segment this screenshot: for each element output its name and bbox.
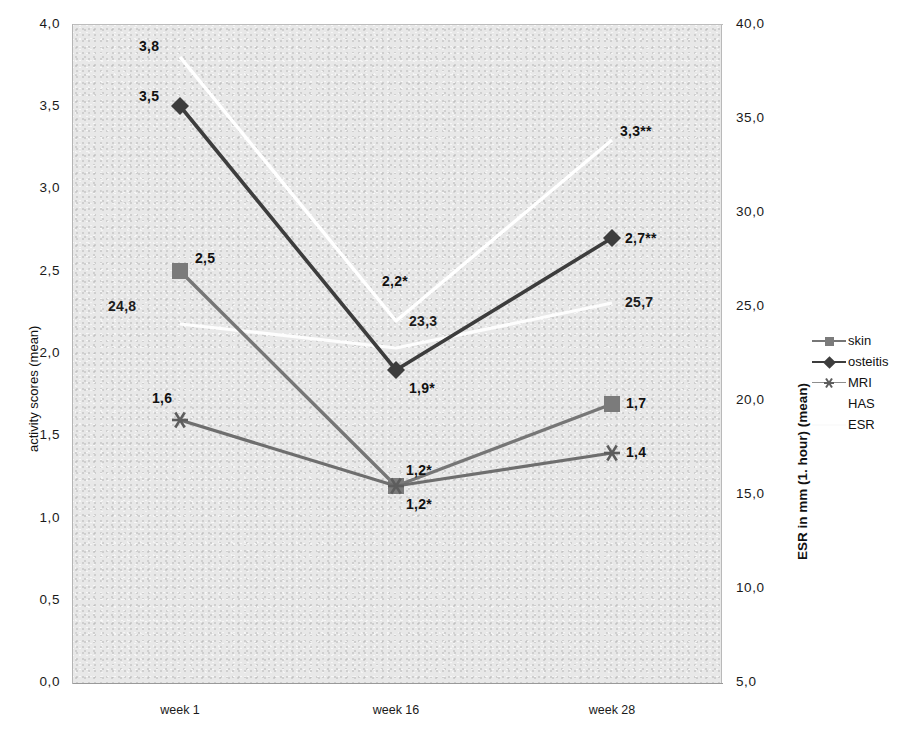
legend-label-esr: ESR: [848, 417, 875, 432]
x-axis-line: [72, 683, 723, 684]
legend-label-osteitis: osteitis: [848, 354, 888, 369]
legend-item-has[interactable]: HAS: [812, 393, 900, 414]
y-right-tick-20-0: 20,0: [736, 392, 765, 407]
y-right-tick-5-0: 5,0: [736, 674, 757, 689]
chart-canvas: 4,0 3,5 3,0 2,5 2,0 1,5 1,0 0,5 0,0 40,0…: [0, 0, 903, 732]
data-label-week28-mri: 1,4: [626, 444, 646, 460]
y-left-tick-0-0: 0,0: [14, 674, 60, 689]
legend-label-mri: MRI: [848, 375, 872, 390]
y-axis-line: [72, 24, 73, 684]
data-label-week16-has: 2,2*: [382, 273, 408, 289]
data-label-week28-has: 3,3**: [620, 123, 652, 139]
y-right-tick-30-0: 30,0: [736, 204, 765, 219]
y-right-tick-15-0: 15,0: [736, 486, 765, 501]
y-right-tick-10-0: 10,0: [736, 580, 765, 595]
data-label-week28-osteitis: 2,7**: [625, 230, 657, 246]
data-label-week16-skin: 1,2*: [406, 462, 432, 478]
data-label-week16-esr: 23,3: [409, 313, 437, 329]
data-label-week1-skin: 2,5: [195, 250, 215, 266]
data-label-week28-esr: 25,7: [625, 294, 653, 310]
x-tick-week-28: week 28: [589, 703, 636, 717]
y-left-tick-3-0: 3,0: [14, 180, 60, 195]
y-left-tick-4-0: 4,0: [14, 16, 60, 31]
data-label-week1-esr: 24,8: [108, 298, 136, 314]
data-label-week1-has: 3,8: [139, 38, 159, 54]
data-label-week28-skin: 1,7: [626, 395, 646, 411]
y-right-tick-40-0: 40,0: [736, 16, 765, 31]
y-right-tick-25-0: 25,0: [736, 298, 765, 313]
legend-label-skin: skin: [848, 333, 871, 348]
legend-item-mri[interactable]: MRI: [812, 372, 900, 393]
line-marker-icon: [812, 418, 846, 432]
chart-legend: skin osteitis MRI: [812, 330, 900, 435]
y-left-tick-1-0: 1,0: [14, 510, 60, 525]
data-label-week1-osteitis: 3,5: [139, 88, 159, 104]
y-axis-left-title: activity scores (mean): [26, 326, 41, 452]
legend-item-esr[interactable]: ESR: [812, 414, 900, 435]
plot-top-border: [72, 24, 723, 25]
y-axis-right-title: ESR in mm (1. hour) (mean): [795, 383, 810, 560]
asterisk-marker-icon: [812, 376, 846, 390]
x-tick-week-1: week 1: [160, 703, 200, 717]
x-tick-week-16: week 16: [373, 703, 420, 717]
legend-item-osteitis[interactable]: osteitis: [812, 351, 900, 372]
y-left-tick-3-5: 3,5: [14, 98, 60, 113]
square-marker-icon: [812, 334, 846, 348]
y-left-tick-0-5: 0,5: [14, 592, 60, 607]
line-marker-icon: [812, 397, 846, 411]
data-label-week16-mri: 1,2*: [406, 496, 432, 512]
y-right-tick-35-0: 35,0: [736, 110, 765, 125]
data-label-week16-osteitis: 1,9*: [409, 380, 435, 396]
legend-label-has: HAS: [848, 396, 875, 411]
legend-item-skin[interactable]: skin: [812, 330, 900, 351]
data-label-week1-mri: 1,6: [152, 390, 172, 406]
diamond-marker-icon: [812, 355, 846, 369]
y-left-tick-2-5: 2,5: [14, 263, 60, 278]
